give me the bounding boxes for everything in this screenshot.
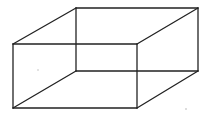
scan-speck (37, 69, 38, 70)
wireframe-cuboid (0, 0, 211, 115)
scan-speck (185, 108, 187, 110)
edge-front-bottom-right-to-back-bottom-right (137, 71, 198, 108)
edge-front-bottom-left-to-back-bottom-left (13, 71, 76, 108)
box-diagram (0, 0, 211, 115)
edge-front-top-left-to-back-top-left (13, 8, 76, 44)
edge-front-top-right-to-back-top-right (137, 8, 198, 44)
